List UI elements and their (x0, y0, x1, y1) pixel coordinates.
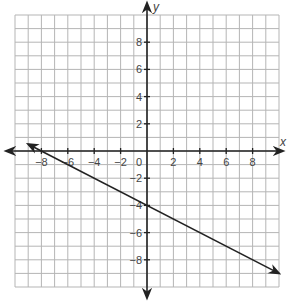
x-tick-label: 6 (223, 156, 229, 168)
x-tick-label: 8 (250, 156, 256, 168)
y-axis-label: y (152, 0, 160, 14)
y-tick-label: 6 (136, 63, 142, 75)
y-tick-label: 2 (136, 118, 142, 130)
x-tick-label: 2 (170, 156, 176, 168)
plotted-line (28, 144, 279, 273)
x-tick-label: −2 (114, 156, 127, 168)
coordinate-plane: −8−6−4−224688642−2−4−6−8 x y 0 (0, 0, 288, 303)
x-tick-label: −4 (88, 156, 101, 168)
y-tick-label: −6 (129, 227, 142, 239)
y-tick-label: 8 (136, 36, 142, 48)
y-tick-label: −2 (129, 172, 142, 184)
line-series (28, 144, 279, 273)
y-tick-label: 4 (136, 91, 142, 103)
y-tick-label: −8 (129, 254, 142, 266)
x-axis-label: x (279, 135, 287, 149)
origin-label: 0 (136, 156, 142, 168)
x-tick-label: −8 (35, 156, 48, 168)
x-tick-label: 4 (197, 156, 203, 168)
